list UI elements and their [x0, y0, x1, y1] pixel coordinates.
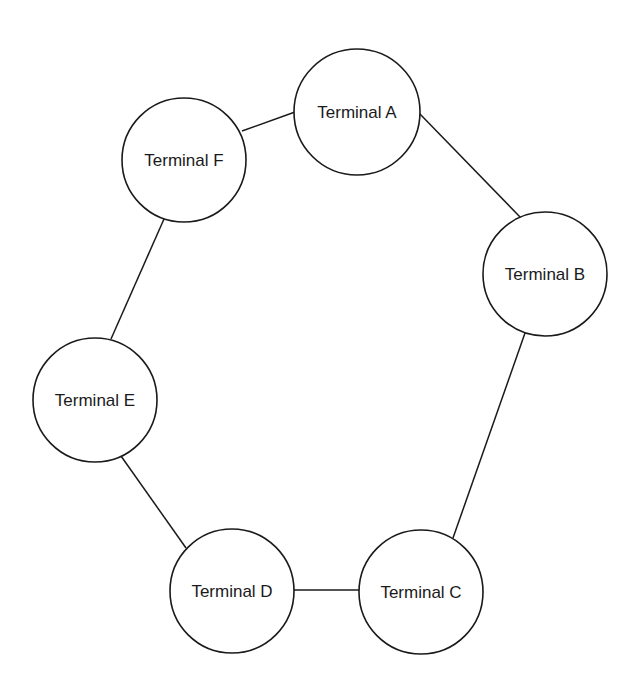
edge-f-a	[242, 112, 295, 131]
nodes-layer: Terminal A Terminal B Terminal C Termina…	[33, 49, 607, 654]
node-terminal-e: Terminal E	[33, 338, 157, 462]
terminal-a-label: Terminal A	[317, 103, 397, 122]
terminal-f-label: Terminal F	[144, 151, 223, 170]
edge-b-c	[453, 333, 525, 538]
terminal-d-label: Terminal D	[191, 582, 272, 601]
ring-network-diagram: Terminal A Terminal B Terminal C Termina…	[0, 0, 637, 691]
node-terminal-f: Terminal F	[122, 98, 246, 222]
terminal-c-label: Terminal C	[380, 583, 461, 602]
terminal-e-label: Terminal E	[55, 391, 135, 410]
edge-a-b	[419, 113, 521, 218]
node-terminal-a: Terminal A	[294, 49, 420, 175]
node-terminal-b: Terminal B	[483, 212, 607, 336]
edge-d-e	[121, 456, 186, 548]
edge-e-f	[111, 219, 164, 339]
terminal-b-label: Terminal B	[505, 265, 585, 284]
node-terminal-d: Terminal D	[170, 529, 294, 653]
node-terminal-c: Terminal C	[359, 530, 483, 654]
